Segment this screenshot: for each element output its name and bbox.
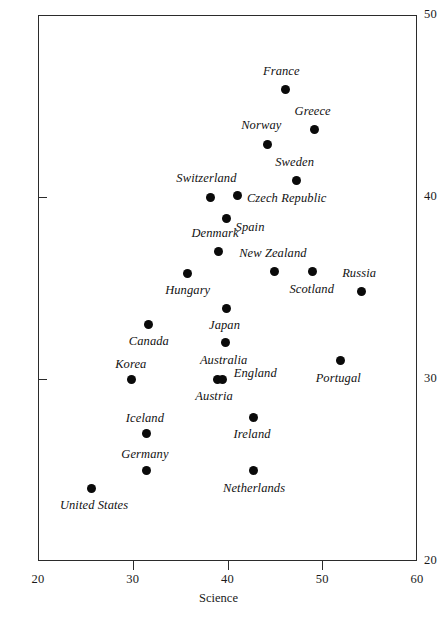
data-point[interactable] (336, 356, 345, 365)
data-point[interactable] (357, 287, 366, 296)
data-point-label: Austria (195, 389, 233, 404)
y-tick-label: 50 (409, 7, 437, 22)
data-point-label: Denmark (191, 226, 238, 241)
data-point-label: United States (60, 498, 128, 513)
y-tick-mark (38, 379, 47, 380)
data-point-label: Japan (209, 318, 240, 333)
x-tick-label: 60 (397, 572, 437, 587)
data-point-label: England (234, 366, 277, 381)
data-point-label: Germany (121, 447, 168, 462)
data-point[interactable] (281, 85, 290, 94)
y-tick-label: 40 (409, 189, 437, 204)
x-tick-mark (228, 561, 229, 570)
data-point-label: Russia (342, 266, 376, 281)
x-tick-label: 40 (208, 572, 248, 587)
scatter-plot-figure: 203040502030405060 FranceGreeceNorwaySwe… (0, 0, 437, 619)
data-point-label: Iceland (126, 411, 164, 426)
x-tick-label: 50 (302, 572, 342, 587)
data-point-label: Canada (129, 334, 169, 349)
data-point[interactable] (249, 413, 258, 422)
x-tick-mark (322, 561, 323, 570)
data-point[interactable] (263, 140, 272, 149)
data-point[interactable] (127, 375, 136, 384)
data-point-label: Ireland (234, 427, 271, 442)
data-point-label: Czech Republic (247, 191, 327, 206)
data-point-label: Hungary (165, 283, 210, 298)
data-point[interactable] (249, 466, 258, 475)
data-point-label: Greece (295, 104, 331, 119)
data-point-label: Switzerland (176, 171, 236, 186)
data-point-label: Sweden (275, 155, 314, 170)
x-axis-title: Science (0, 591, 437, 606)
data-point[interactable] (218, 375, 227, 384)
data-point-label: Norway (241, 118, 281, 133)
y-tick-mark (38, 197, 47, 198)
y-tick-label: 30 (409, 371, 437, 386)
data-point-label: France (263, 64, 300, 79)
data-point[interactable] (214, 247, 223, 256)
data-point[interactable] (222, 304, 231, 313)
x-tick-label: 30 (113, 572, 153, 587)
data-point-label: Netherlands (223, 481, 285, 496)
data-point[interactable] (87, 484, 96, 493)
y-tick-label: 20 (409, 553, 437, 568)
data-point[interactable] (206, 193, 215, 202)
data-point-label: New Zealand (239, 246, 306, 261)
data-point-label: Portugal (316, 371, 361, 386)
x-tick-mark (133, 561, 134, 570)
x-tick-label: 20 (18, 572, 58, 587)
data-point-label: Korea (115, 357, 146, 372)
data-point-label: Spain (236, 220, 265, 235)
data-point[interactable] (142, 466, 151, 475)
data-point-label: Scotland (289, 282, 334, 297)
